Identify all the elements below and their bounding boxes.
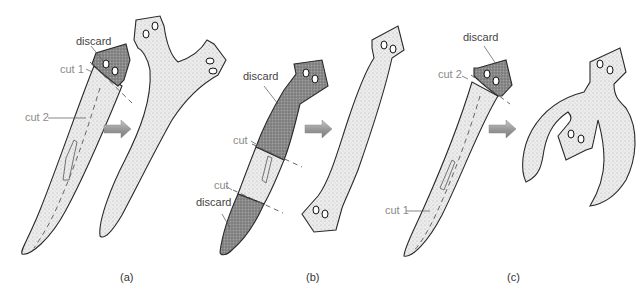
- label-b-discard-top: discard: [243, 71, 278, 82]
- label-a-discard: discard: [76, 36, 111, 47]
- panel-a: [22, 16, 226, 254]
- label-a-cut-1: cut 1: [60, 64, 84, 75]
- eye-icon: [390, 45, 396, 53]
- arrow-icon: [489, 120, 516, 138]
- eye-icon: [607, 66, 613, 74]
- panel-label-a: (a): [120, 272, 133, 283]
- label-b-cut-upper: cut: [233, 135, 248, 146]
- eye-icon: [312, 75, 318, 83]
- eye-icon: [568, 130, 574, 138]
- arrow-icon: [305, 120, 332, 138]
- arrow-icon: [104, 120, 131, 138]
- panel-label-c: (c): [507, 272, 520, 283]
- label-c-cut-1: cut 1: [385, 205, 409, 216]
- label-c-discard: discard: [463, 32, 498, 43]
- label-b-discard-bottom: discard: [196, 197, 231, 208]
- eye-icon: [578, 135, 584, 143]
- eye-icon: [322, 210, 328, 218]
- eye-icon: [112, 67, 118, 75]
- worm-c-result: [523, 48, 635, 206]
- label-c-cut-2: cut 2: [438, 69, 462, 80]
- label-a-cut-2: cut 2: [25, 112, 49, 123]
- eye-icon: [206, 58, 214, 64]
- label-b-cut-lower: cut: [214, 180, 229, 191]
- worm-c-original-body: [404, 82, 498, 256]
- eye-icon: [597, 60, 603, 68]
- eye-icon: [484, 70, 490, 78]
- eye-icon: [103, 60, 109, 68]
- panel-label-b: (b): [306, 272, 319, 283]
- eye-icon: [209, 68, 217, 74]
- eye-icon: [493, 77, 499, 85]
- eye-icon: [313, 206, 319, 214]
- eye-icon: [143, 30, 149, 38]
- planarian-regeneration-figure: discard cut 1 cut 2 (a) discard cut cut …: [0, 0, 642, 300]
- eye-icon: [303, 69, 309, 77]
- eye-icon: [152, 22, 158, 30]
- eye-icon: [381, 41, 387, 49]
